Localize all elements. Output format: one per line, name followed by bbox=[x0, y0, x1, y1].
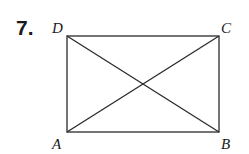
vertex-label-c: C bbox=[221, 21, 231, 36]
vertex-label-a: A bbox=[52, 137, 61, 152]
vertex-label-d: D bbox=[52, 21, 63, 36]
rectangle-figure bbox=[0, 0, 249, 154]
vertex-label-b: B bbox=[221, 137, 230, 152]
